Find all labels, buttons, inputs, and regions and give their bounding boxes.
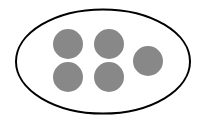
dot-5	[94, 62, 124, 92]
dot-4	[53, 62, 83, 92]
set-diagram	[0, 0, 204, 124]
dot-3	[133, 46, 163, 76]
dot-2	[94, 29, 124, 59]
set-ellipse	[16, 10, 190, 114]
dot-1	[53, 29, 83, 59]
